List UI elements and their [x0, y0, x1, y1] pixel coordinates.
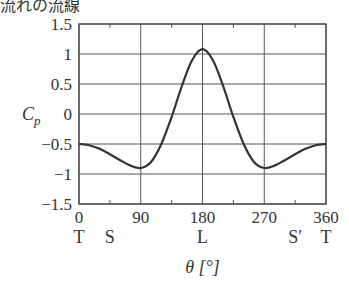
y-tick-label: 1.5: [51, 15, 72, 34]
y-tick-label: 0.5: [51, 75, 72, 94]
x-point-label: S: [105, 227, 115, 247]
y-tick-label: −0.5: [41, 135, 72, 154]
y-tick-label: 0: [64, 105, 73, 124]
x-tick-label: 90: [132, 208, 149, 227]
y-axis-label: Cp: [22, 104, 41, 128]
x-tick-label: 180: [190, 208, 216, 227]
x-tick-label: 360: [313, 208, 339, 227]
x-point-label: T: [74, 227, 85, 247]
y-tick-label: 1: [64, 45, 73, 64]
x-point-label: L: [197, 227, 208, 247]
x-point-label: S′: [288, 227, 302, 247]
x-tick-label: 0: [75, 208, 84, 227]
x-axis-label: θ [°]: [185, 257, 220, 277]
y-tick-label: −1.5: [41, 195, 72, 214]
x-point-label: T: [321, 227, 332, 247]
x-tick-label: 270: [252, 208, 278, 227]
cp-chart: 1.510.50−0.5−1−1.5090180270360TSLS′TCpθ …: [0, 0, 349, 281]
y-tick-label: −1: [54, 165, 72, 184]
